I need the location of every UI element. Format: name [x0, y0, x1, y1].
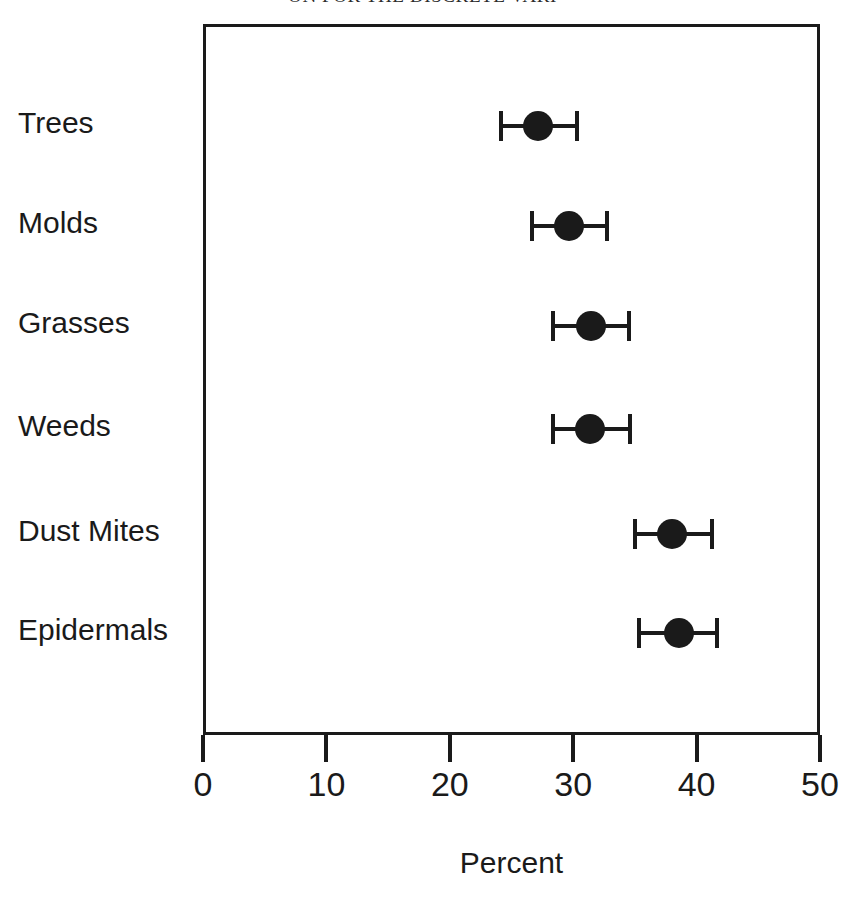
error-bar-cap-upper — [605, 211, 609, 241]
x-axis: 01020304050 — [203, 735, 820, 736]
x-axis-tick — [695, 735, 699, 762]
error-bar-cap-lower — [551, 414, 555, 444]
data-point-marker — [657, 519, 687, 549]
x-axis-tick — [571, 735, 575, 762]
x-axis-tick — [448, 735, 452, 762]
category-label-grasses: Grasses — [0, 306, 193, 340]
data-point-marker — [554, 211, 584, 241]
data-point-marker — [664, 618, 694, 648]
category-label-molds: Molds — [0, 206, 193, 240]
x-axis-tick — [201, 735, 205, 762]
x-axis-ticklabel: 50 — [801, 767, 839, 801]
error-bar-cap-lower — [551, 311, 555, 341]
error-bar-cap-lower — [637, 618, 641, 648]
x-axis-tick — [818, 735, 822, 762]
x-axis-ticklabel: 0 — [194, 767, 213, 801]
x-axis-ticklabel: 20 — [431, 767, 469, 801]
data-point-marker — [523, 111, 553, 141]
x-axis-ticklabel: 10 — [307, 767, 345, 801]
category-label-weeds: Weeds — [0, 409, 193, 443]
category-label-dust-mites: Dust Mites — [0, 514, 193, 548]
x-axis-ticklabel: 40 — [678, 767, 716, 801]
category-label-trees: Trees — [0, 106, 193, 140]
x-axis-title: Percent — [203, 846, 820, 880]
data-point-marker — [576, 311, 606, 341]
error-bar-cap-upper — [627, 311, 631, 341]
x-axis-tick — [324, 735, 328, 762]
chart-figure: ON FOR THE DISCRETE VARI TreesMoldsGrass… — [0, 0, 845, 901]
category-label-epidermals: Epidermals — [0, 613, 193, 647]
plot-area — [203, 24, 820, 735]
error-bar-cap-upper — [715, 618, 719, 648]
error-bar-cap-upper — [628, 414, 632, 444]
chart-title: ON FOR THE DISCRETE VARI — [0, 0, 845, 8]
error-bar-cap-lower — [633, 519, 637, 549]
x-axis-ticklabel: 30 — [554, 767, 592, 801]
error-bar-cap-lower — [499, 111, 503, 141]
data-point-marker — [575, 414, 605, 444]
error-bar-cap-upper — [575, 111, 579, 141]
error-bar-cap-upper — [710, 519, 714, 549]
error-bar-cap-lower — [530, 211, 534, 241]
